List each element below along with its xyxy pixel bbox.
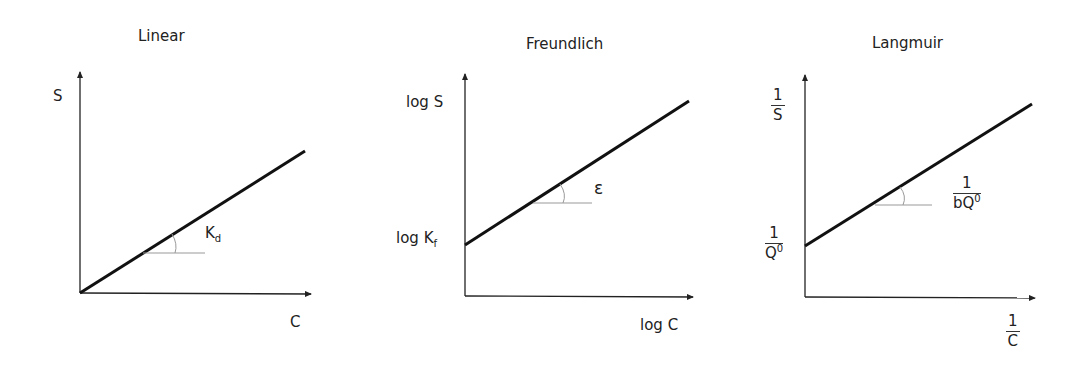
intercept-denominator: Q0 xyxy=(765,244,783,261)
langmuir-x-axis xyxy=(805,297,1035,298)
langmuir-title: Langmuir xyxy=(872,34,943,52)
x-denominator: C xyxy=(1008,332,1018,349)
linear-plot xyxy=(80,72,311,294)
slope-denominator: bQ0 xyxy=(953,194,981,211)
slope-symbol: K xyxy=(205,224,215,242)
linear-x-axis xyxy=(80,293,311,294)
intercept-superscript: 0 xyxy=(777,243,783,254)
y-denominator: S xyxy=(773,106,783,123)
linear-title: Linear xyxy=(138,27,185,45)
freundlich-angle-arc xyxy=(560,184,564,203)
langmuir-isotherm-line xyxy=(805,104,1032,246)
freundlich-slope-label: ε xyxy=(594,180,603,197)
linear-y-label: S xyxy=(53,89,63,104)
langmuir-angle-arc xyxy=(900,187,904,205)
linear-angle-arc xyxy=(172,234,176,253)
freundlich-title: Freundlich xyxy=(526,35,603,53)
intercept-subscript: f xyxy=(433,238,437,249)
y-numerator: 1 xyxy=(771,88,785,105)
linear-slope-label: Kd xyxy=(205,226,221,241)
langmuir-slope-label: 1 bQ0 xyxy=(953,176,981,211)
intercept-numerator: 1 xyxy=(767,226,781,243)
langmuir-x-label: 1 C xyxy=(1006,314,1020,349)
freundlich-y-label: log S xyxy=(406,95,443,110)
slope-numerator: 1 xyxy=(960,176,974,193)
slope-subscript: d xyxy=(215,233,221,244)
freundlich-x-label: log C xyxy=(640,318,678,333)
x-numerator: 1 xyxy=(1006,314,1020,331)
slope-den-text: bQ xyxy=(953,194,974,212)
intercept-symbol: log K xyxy=(396,229,433,247)
langmuir-y-label: 1 S xyxy=(771,88,785,123)
langmuir-plot xyxy=(805,75,1035,298)
intercept-den-text: Q xyxy=(765,244,777,262)
freundlich-x-axis xyxy=(465,296,693,297)
freundlich-plot xyxy=(465,74,693,297)
freundlich-isotherm-line xyxy=(465,101,689,245)
slope-superscript: 0 xyxy=(974,193,980,204)
isotherm-plots xyxy=(0,0,1070,365)
linear-x-label: C xyxy=(290,315,300,330)
linear-isotherm-line xyxy=(80,151,305,293)
langmuir-intercept-label: 1 Q0 xyxy=(765,226,783,261)
freundlich-intercept-label: log Kf xyxy=(396,231,437,246)
